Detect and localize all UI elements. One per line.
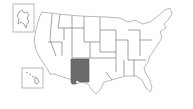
alaska-inset xyxy=(13,4,34,32)
hawaii-inset xyxy=(22,68,43,88)
mainland xyxy=(34,8,172,94)
us-map xyxy=(0,0,193,109)
state-new-mexico[interactable] xyxy=(71,59,89,84)
